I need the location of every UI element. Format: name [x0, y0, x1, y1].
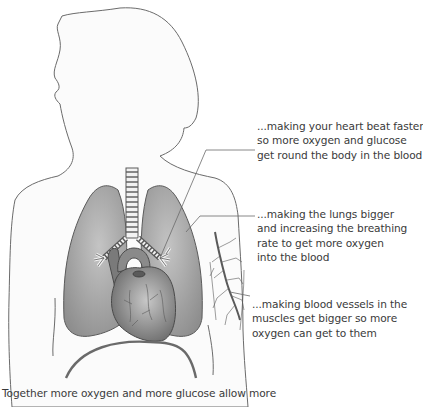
caption: Together more oxygen and more glucose al… [2, 387, 276, 399]
annotation-lungs: ...making the lungs bigger and increasin… [257, 207, 407, 265]
annotation-heart: ...making your heart beat faster so more… [257, 119, 423, 162]
annotation-blood-vessels: ...making blood vessels in the muscles g… [252, 297, 407, 340]
